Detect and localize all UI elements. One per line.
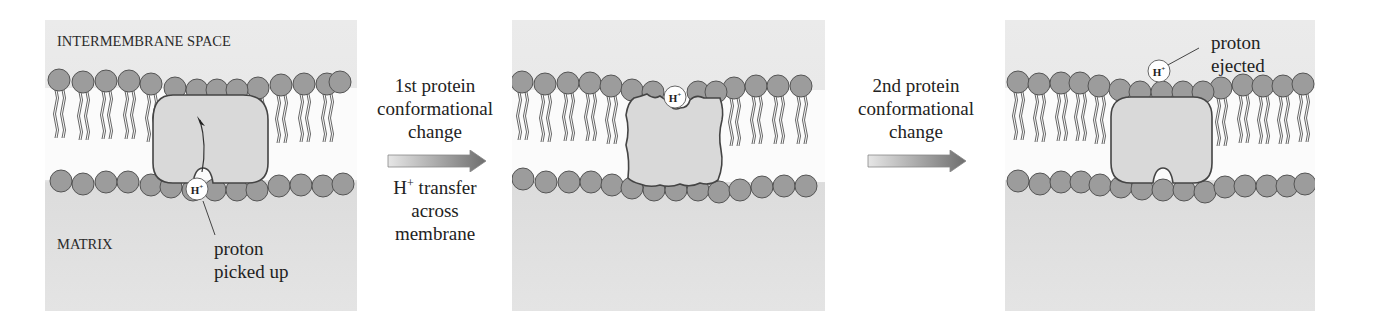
- step-1-label-above: 1st protein conformational change: [365, 74, 505, 143]
- step-2-arrow-icon: [867, 150, 967, 172]
- membrane-diagram-2: H+: [512, 20, 825, 311]
- step-1-line-1: 1st protein: [365, 74, 505, 97]
- proton-picked-up-callout: proton picked up: [214, 237, 288, 283]
- callout-leader-line: [1166, 48, 1199, 66]
- step-2-line-3: change: [846, 120, 986, 143]
- callout-leader-line: [203, 201, 215, 235]
- step-2-line-2: conformational: [846, 97, 986, 120]
- step-1-below-line-3: membrane: [365, 222, 505, 245]
- proton-icon: H+: [664, 86, 686, 108]
- panel-proton-ejected: H+ proton ejected: [1005, 20, 1315, 311]
- step-1-arrow-icon: [387, 150, 487, 172]
- step-1-below-line-2: across: [365, 199, 505, 222]
- proton-icon: H+: [1148, 60, 1170, 82]
- callout-line-2: picked up: [214, 260, 288, 283]
- step-1-line-3: change: [365, 120, 505, 143]
- callout-line-2: ejected: [1211, 54, 1265, 77]
- callout-line-1: proton: [1211, 31, 1265, 54]
- proton-icon: H+: [186, 178, 208, 200]
- membrane-diagram-1: H+: [45, 20, 357, 311]
- panel-proton-pickup: H+ INTERMEMBRANE SPACE MATRIX proton pic…: [45, 20, 357, 311]
- step-1-below-line-1: H+ transfer: [365, 176, 505, 199]
- intermembrane-space-label: INTERMEMBRANE SPACE: [57, 33, 231, 50]
- step-1-line-2: conformational: [365, 97, 505, 120]
- step-2-line-1: 2nd protein: [846, 74, 986, 97]
- step-2-label-above: 2nd protein conformational change: [846, 74, 986, 143]
- proton-ejected-callout: proton ejected: [1211, 31, 1265, 77]
- transport-protein-open-bottom: [153, 95, 268, 183]
- step-1-label-below: H+ transfer across membrane: [365, 176, 505, 245]
- membrane-diagram-3: H+: [1005, 20, 1315, 311]
- callout-line-1: proton: [214, 237, 288, 260]
- panel-proton-transfer: H+: [512, 20, 825, 311]
- matrix-label: MATRIX: [57, 236, 113, 253]
